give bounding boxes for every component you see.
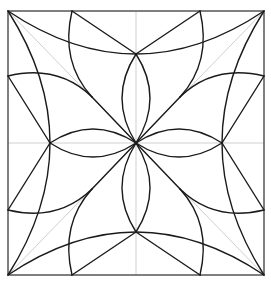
edge-arc-top-left-a [69,11,92,97]
spoke-bottom-right-a [136,232,200,275]
spoke-bottom-left-a [72,232,136,275]
quilt-pattern-diagram [0,0,271,285]
spoke-left-top [8,76,50,143]
spoke-top-right-a [136,11,200,54]
spoke-right-top [222,76,264,143]
edge-arc-top-right-a [180,11,203,97]
spoke-left-bottom [8,143,50,210]
diagonal-spoke-br [136,143,180,189]
diagonal-spoke-tr [136,97,180,143]
diagonal-spoke-bl [92,143,136,189]
diagonal-spoke-tl [92,97,136,143]
edge-arc-bottom-right-a [180,189,203,275]
spoke-top-left-a [72,11,136,54]
spoke-right-bottom [222,143,264,210]
edge-arc-bottom-left-a [69,189,92,275]
